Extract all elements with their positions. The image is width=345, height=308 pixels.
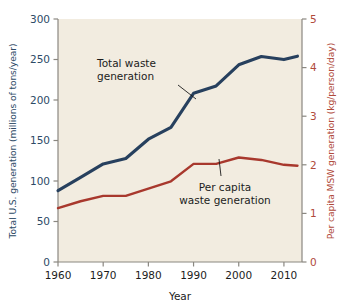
left-tick-label: 200 (30, 94, 50, 106)
x-tick-label: 1990 (180, 269, 207, 281)
right-tick-label: 5 (310, 13, 317, 25)
bottom-axis-ticks (58, 262, 284, 267)
left-axis-title: Total U.S. generation (millions of tons/… (7, 44, 18, 240)
annotation-total-waste-line2: generation (97, 70, 154, 82)
chart-canvas: 050100150200250300 012345 19601970198019… (0, 0, 345, 308)
right-axis-title: Per capita MSW generation (kg/person/day… (325, 43, 336, 239)
left-axis-tick-labels: 050100150200250300 (30, 13, 50, 268)
annotation-per-capita-line1: Per capita (199, 181, 251, 193)
annotation-total-waste-line1: Total waste (96, 57, 156, 69)
x-tick-label: 2010 (271, 269, 298, 281)
left-tick-label: 250 (30, 53, 50, 65)
right-tick-label: 2 (310, 159, 317, 171)
left-tick-label: 50 (37, 215, 50, 227)
right-axis-ticks (302, 19, 307, 262)
left-tick-label: 300 (30, 13, 50, 25)
left-tick-label: 150 (30, 134, 50, 146)
waste-generation-figure: 050100150200250300 012345 19601970198019… (0, 0, 345, 308)
right-axis-tick-labels: 012345 (310, 13, 317, 268)
plot-area-background (58, 19, 302, 262)
left-tick-label: 0 (43, 256, 50, 268)
left-axis-ticks (54, 19, 59, 262)
x-tick-label: 1960 (45, 269, 72, 281)
right-tick-label: 0 (310, 256, 317, 268)
x-axis-title: Year (168, 290, 192, 302)
left-tick-label: 100 (30, 175, 50, 187)
annotation-per-capita-line2: waste generation (179, 194, 271, 206)
right-tick-label: 3 (310, 110, 317, 122)
right-tick-label: 1 (310, 207, 317, 219)
bottom-axis-tick-labels: 196019701980199020002010 (45, 269, 298, 281)
x-tick-label: 1980 (135, 269, 162, 281)
x-tick-label: 2000 (225, 269, 252, 281)
right-tick-label: 4 (310, 61, 317, 73)
x-tick-label: 1970 (90, 269, 117, 281)
